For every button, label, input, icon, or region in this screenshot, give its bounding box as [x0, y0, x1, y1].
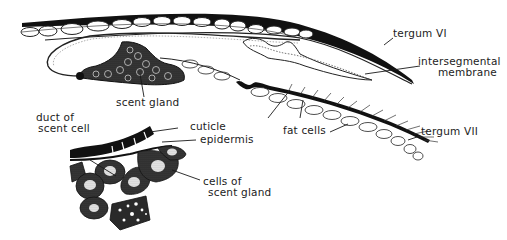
scent-gland-mass: [76, 42, 240, 85]
label-epidermis: epidermis: [200, 134, 254, 145]
label-scent-gland: scent gland: [116, 97, 179, 108]
label-cells-line2: scent gland: [208, 187, 271, 198]
label-fat-cells: fat cells: [283, 125, 326, 136]
label-cuticle: cuticle: [190, 121, 226, 132]
label-tergum-vii: tergum VII: [421, 126, 478, 137]
label-duct-line2: scent cell: [38, 123, 90, 134]
scent-gland-diagram: tergum VI intersegmental membrane scent …: [0, 0, 507, 240]
label-intersegmental-line2: membrane: [418, 67, 497, 78]
tergum-vii-plate: [236, 81, 438, 160]
label-tergum-vi: tergum VI: [393, 28, 447, 39]
